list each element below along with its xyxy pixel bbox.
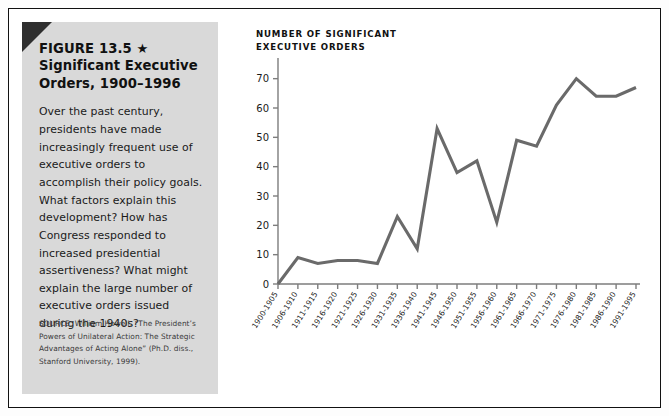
y-axis-tick-label: 40 bbox=[256, 161, 269, 172]
figure-title-line-1: Significant Executive bbox=[39, 57, 206, 74]
caption-panel: FIGURE 13.5 ★ Significant Executive Orde… bbox=[22, 22, 218, 394]
line-chart: 0102030405060701900-19051906-19101911-19… bbox=[238, 22, 650, 394]
y-axis-tick-label: 20 bbox=[256, 220, 269, 231]
y-axis-tick-label: 70 bbox=[256, 73, 269, 84]
y-axis-tick-label: 50 bbox=[256, 132, 269, 143]
figure-source-note: SOURCE: William Howell, “The President’s… bbox=[39, 318, 207, 369]
figure-number-label: FIGURE 13.5 ★ bbox=[39, 40, 206, 57]
figure-caption-body: Over the past century, presidents have m… bbox=[39, 103, 206, 333]
figure-title: FIGURE 13.5 ★ Significant Executive Orde… bbox=[39, 40, 206, 92]
y-axis-tick-label: 30 bbox=[256, 191, 269, 202]
figure-root: FIGURE 13.5 ★ Significant Executive Orde… bbox=[0, 0, 669, 416]
y-axis-tick-label: 0 bbox=[263, 279, 269, 290]
chart-panel: NUMBER OF SIGNIFICANT EXECUTIVE ORDERS 0… bbox=[238, 22, 650, 394]
y-axis-tick-label: 10 bbox=[256, 249, 269, 260]
data-series-line bbox=[278, 79, 636, 284]
figure-title-line-2: Orders, 1900–1996 bbox=[39, 75, 206, 92]
caption-text-block: FIGURE 13.5 ★ Significant Executive Orde… bbox=[39, 40, 206, 333]
y-axis-tick-label: 60 bbox=[256, 103, 269, 114]
